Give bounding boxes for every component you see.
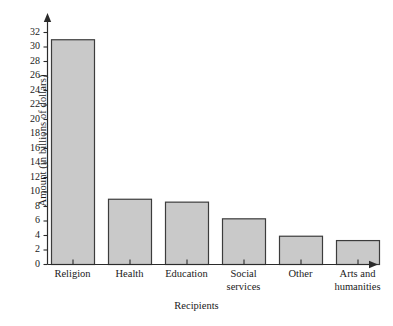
x-label-arts-and-humanities: Arts and humanities (316, 268, 393, 293)
bar-chart: Amount (in billions of dollars) 02468101… (0, 0, 393, 326)
x-axis-tick-labels: ReligionHealthEducationSocial servicesOt… (0, 0, 393, 326)
x-axis-title: Recipients (0, 300, 393, 311)
